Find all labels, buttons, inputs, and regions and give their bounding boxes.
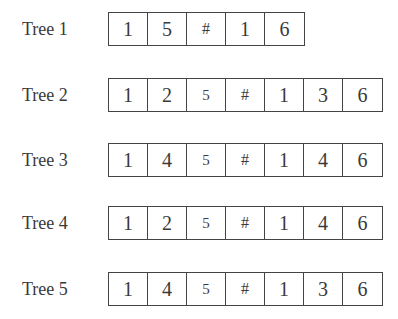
array-cell: 3 [304,79,343,111]
array-cell: 1 [265,273,304,305]
tree-label: Tree 4 [22,206,68,240]
null-marker-cell: # [226,79,265,111]
array-cell: 4 [148,273,187,305]
array-cell: 5 [187,207,226,239]
serialized-array: 125#136 [108,78,383,112]
null-marker-cell: # [226,273,265,305]
array-cell: 6 [265,13,304,45]
array-cell: 1 [226,13,265,45]
array-cell: 1 [109,13,148,45]
tree-label: Tree 3 [22,143,68,177]
serialized-array: 125#146 [108,206,383,240]
array-cell: 5 [187,144,226,176]
null-marker-cell: # [187,13,226,45]
array-cell: 6 [343,273,382,305]
array-cell: 1 [109,207,148,239]
array-cell: 5 [148,13,187,45]
array-cell: 5 [187,273,226,305]
array-cell: 6 [343,207,382,239]
null-marker-cell: # [226,144,265,176]
array-cell: 6 [343,144,382,176]
array-cell: 4 [148,144,187,176]
array-cell: 3 [304,273,343,305]
serialized-array: 145#146 [108,143,383,177]
array-cell: 2 [148,79,187,111]
serialized-array: 15#16 [108,12,305,46]
array-cell: 1 [109,144,148,176]
array-cell: 1 [109,79,148,111]
tree-label: Tree 2 [22,78,68,112]
array-cell: 5 [187,79,226,111]
array-cell: 6 [343,79,382,111]
array-cell: 1 [265,79,304,111]
array-cell: 1 [265,144,304,176]
array-cell: 1 [109,273,148,305]
array-cell: 2 [148,207,187,239]
array-cell: 4 [304,207,343,239]
tree-label: Tree 5 [22,272,68,306]
null-marker-cell: # [226,207,265,239]
array-cell: 4 [304,144,343,176]
serialized-array: 145#136 [108,272,383,306]
array-cell: 1 [265,207,304,239]
tree-label: Tree 1 [22,12,68,46]
